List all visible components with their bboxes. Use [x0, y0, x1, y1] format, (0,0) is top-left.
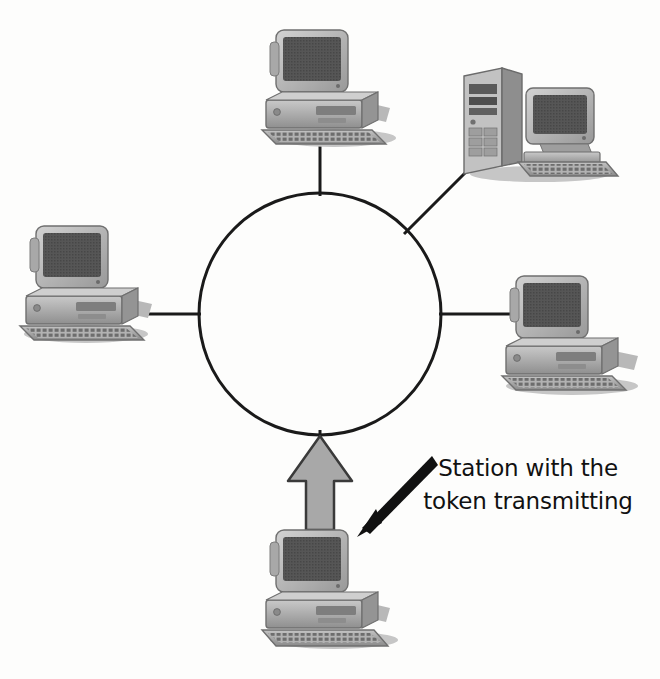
token-ring: [199, 193, 441, 435]
workstation-bottom-token-holder: [252, 522, 402, 652]
callout-line-1: Station with the: [404, 452, 652, 485]
callout-line-2: token transmitting: [404, 485, 652, 518]
server-top-right: [448, 62, 620, 187]
callout-label: Station with the token transmitting: [404, 452, 652, 518]
token-transmission-arrow: [288, 436, 352, 530]
workstation-top: [252, 22, 402, 152]
workstation-right: [488, 262, 648, 402]
workstation-left: [12, 218, 162, 348]
token-ring-figure: Station with the token transmitting: [0, 0, 660, 679]
